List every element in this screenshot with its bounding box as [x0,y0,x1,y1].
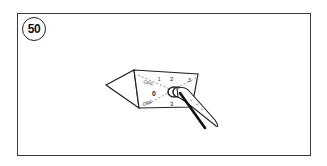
label-3: 3 [188,77,191,83]
label-0: 0 [152,90,156,97]
rotary-switch-illustration: OFF 1 2 3 0 OFF 3 [0,0,327,166]
switch-box-side [106,70,139,108]
